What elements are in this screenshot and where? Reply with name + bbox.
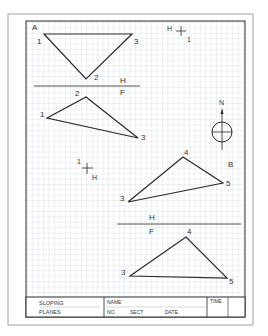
- point-label-5: 5: [226, 179, 231, 188]
- reference-label-h: H: [92, 174, 97, 181]
- fold-label-h: H: [120, 76, 126, 85]
- reference-label-h: H: [167, 25, 172, 32]
- point-label-2: 2: [75, 89, 80, 98]
- name-field-label: NAME: [107, 299, 122, 305]
- title-planes: PLANES: [39, 309, 61, 315]
- point-label-3: 3: [141, 133, 146, 142]
- point-label-4: 4: [187, 227, 192, 236]
- point-label-5: 5: [229, 277, 234, 286]
- no-field-label: NO.: [107, 309, 116, 315]
- fold-label-f: F: [120, 88, 125, 97]
- fold-label-h: H: [149, 213, 155, 222]
- point-label-2: 2: [94, 73, 99, 82]
- date-field-label: DATE: [165, 309, 179, 315]
- point-label-4: 4: [184, 148, 189, 157]
- reference-label-1: 1: [187, 36, 191, 43]
- sect-field-label: SECT: [130, 309, 143, 315]
- drafting-worksheet: H F H F A 1 2 3 2 1 3 H 1 1 H N B 3 4 5 …: [0, 0, 268, 336]
- title-sloping: SLOPING: [39, 300, 63, 306]
- point-label-1: 1: [40, 110, 45, 119]
- point-label-3: 3: [121, 268, 126, 277]
- point-label-1: 1: [37, 37, 42, 46]
- view-label-b: B: [228, 160, 233, 169]
- fold-label-f: F: [149, 227, 154, 236]
- time-field-label: TIME: [210, 298, 223, 304]
- north-label: N: [219, 99, 224, 106]
- point-label-3: 3: [120, 194, 125, 203]
- reference-label-1: 1: [77, 158, 81, 165]
- point-label-3: 3: [134, 37, 139, 46]
- view-label-a: A: [32, 23, 38, 32]
